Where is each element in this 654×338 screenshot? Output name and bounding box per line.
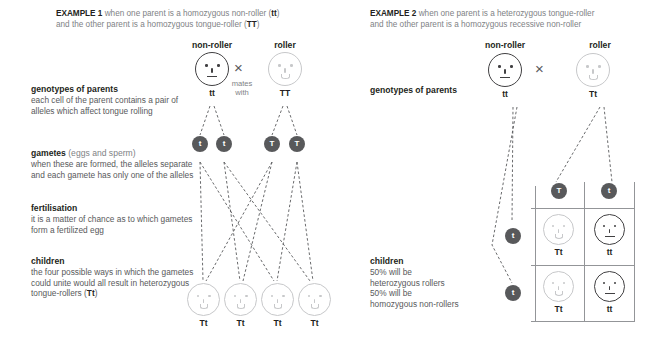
grid-line-vertical-right (634, 182, 635, 322)
eye-left (603, 225, 605, 227)
e2-stage-children-body: 50% will be heterozygous rollers 50% wil… (370, 267, 510, 309)
parent-right-genotype: TT (268, 88, 302, 98)
example-2-intro-part1: when one parent is a heterozygous tongue… (416, 9, 594, 18)
eye-right (217, 64, 220, 67)
eye-right (208, 295, 211, 298)
e2-stage-children: children 50% will be heterozygous roller… (370, 256, 510, 309)
stage-children-body-allele: Tt (87, 288, 95, 298)
parent-face-roller (268, 52, 302, 86)
mouth-u (281, 74, 290, 79)
example-1-intro-line2-part2: ) (257, 20, 260, 29)
punnett-face-cell-1 (543, 214, 574, 245)
eye-right (245, 295, 248, 298)
stage-genotypes-of-parents: genotypes of parents each cell of the pa… (31, 84, 196, 116)
example-2-intro-line2: and the other parent is a homozygous rec… (370, 20, 581, 29)
punnett-col-allele-2: t (601, 183, 617, 199)
child-face-4 (298, 283, 331, 316)
child-face-1 (187, 283, 220, 316)
nose (284, 68, 286, 73)
e2-parent-left-label: non-roller (471, 40, 539, 50)
stage-children-body-part2: ) (95, 288, 98, 298)
mouth-u (237, 304, 246, 309)
eye-left (271, 295, 274, 298)
example-1-intro-part1: when one parent is a homozygous non-roll… (102, 9, 271, 18)
stage-gametes-heading: gametes (eggs and sperm) (31, 148, 199, 159)
stage-gametes: gametes (eggs and sperm) when these are … (31, 148, 199, 180)
gamete-puck-2: t (216, 136, 232, 152)
eye-right (563, 225, 565, 227)
gamete-puck-1: t (192, 136, 208, 152)
child-genotype-4: Tt (298, 318, 331, 328)
punnett-genotype-cell-3: Tt (543, 304, 574, 314)
mouth-u (555, 291, 563, 296)
punnett-genotype-cell-4: tt (594, 304, 625, 314)
eye-right (510, 65, 513, 68)
eye-left (197, 295, 200, 298)
example-1-intro-line2-part1: and the other parent is a homozygous ton… (56, 20, 247, 29)
stage-fertilisation: fertilisation it is a matter of chance a… (31, 203, 199, 235)
punnett-face-cell-4 (594, 271, 625, 302)
parent-face-non-roller (195, 52, 229, 86)
cross-symbol: × (234, 60, 243, 75)
nose (558, 286, 560, 291)
punnett-genotype-cell-1: Tt (543, 247, 574, 257)
example-2-tag: EXAMPLE 2 (370, 9, 416, 18)
mouth-flat (605, 293, 615, 294)
stage-children-body-part1: the four possible ways in which the game… (31, 267, 193, 298)
nose (558, 229, 560, 234)
e2-parent-right-genotype: Tt (576, 89, 610, 99)
eye-right (563, 282, 565, 284)
stage-children: children the four possible ways in which… (31, 256, 196, 299)
grid-line-horizontal-header (531, 208, 635, 209)
child-genotype-3: Tt (261, 318, 294, 328)
stage-fertilisation-body: it is a matter of chance as to which gam… (31, 214, 199, 235)
mouth-u (589, 75, 598, 80)
eye-left (205, 64, 208, 67)
nose (240, 299, 242, 304)
mouth-u (555, 234, 563, 239)
nose (314, 299, 316, 304)
nose (504, 69, 506, 74)
stage-children-heading: children (31, 256, 196, 267)
punnett-square: T t t t Tt tt Tt tt (535, 186, 635, 322)
mates-line-2: with (235, 88, 249, 97)
punnett-face-cell-2 (594, 214, 625, 245)
mouth-u (200, 304, 209, 309)
eye-right (290, 64, 293, 67)
nose (211, 68, 213, 73)
e2-children-line-2: heterozygous rollers (370, 278, 445, 288)
parent-left-label: non-roller (178, 40, 246, 50)
mouth-u (311, 304, 320, 309)
gamete-puck-4: T (289, 136, 305, 152)
e2-stage-children-heading: children (370, 256, 510, 267)
mouth-flat (500, 77, 510, 78)
stage-gametes-heading-regular: (eggs and sperm) (66, 148, 136, 158)
grid-line-vertical-left (535, 186, 536, 322)
nose (609, 286, 611, 291)
grid-line-horizontal-mid (531, 265, 635, 266)
eye-left (552, 225, 554, 227)
child-genotype-2: Tt (224, 318, 257, 328)
nose (592, 69, 594, 74)
stage-genotypes-heading: genotypes of parents (31, 84, 196, 95)
stage-genotypes-body: each cell of the parent contains a pair … (31, 95, 196, 116)
child-genotype-1: Tt (187, 318, 220, 328)
eye-left (308, 295, 311, 298)
child-face-2 (224, 283, 257, 316)
e2-parent-right-label: roller (568, 40, 632, 50)
parent-left-genotype: tt (195, 88, 229, 98)
stage-children-body: the four possible ways in which the game… (31, 267, 196, 299)
punnett-row-allele-1: t (505, 228, 521, 244)
mouth-flat (207, 76, 217, 77)
mouth-u (274, 304, 283, 309)
eye-left (278, 64, 281, 67)
e2-parent-face-non-roller (488, 53, 522, 87)
eye-left (603, 282, 605, 284)
example-1-panel: EXAMPLE 1 when one parent is a homozygou… (0, 0, 355, 338)
eye-left (234, 295, 237, 298)
e2-children-line-4: homozygous non-rollers (370, 299, 459, 309)
grid-line-vertical-mid (584, 182, 585, 322)
mates-line-1: mates (232, 79, 253, 88)
eye-right (282, 295, 285, 298)
eye-right (319, 295, 322, 298)
